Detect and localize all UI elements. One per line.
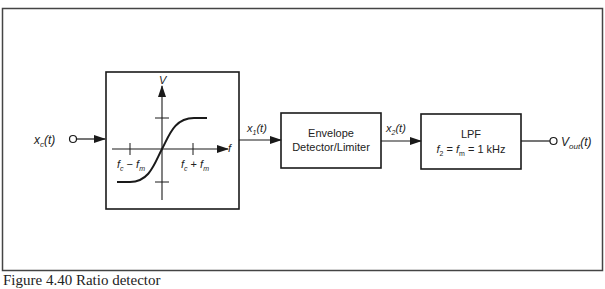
- x2-connection: x2(t): [381, 122, 421, 141]
- envelope-line1: Envelope: [308, 127, 354, 139]
- lpf-title: LPF: [461, 128, 481, 140]
- f-axis-label: f: [228, 142, 232, 154]
- x2-label: x2(t): [385, 122, 406, 136]
- envelope-line2: Detector/Limiter: [292, 141, 370, 153]
- lpf-cutoff-equation: f2 = fm = 1 kHz: [436, 143, 505, 157]
- x1-label: x1(t): [246, 122, 267, 136]
- lpf-block: LPF f2 = fm = 1 kHz: [421, 114, 521, 169]
- tick-left-label: fc − fm: [117, 158, 145, 172]
- v-axis-label: V: [159, 74, 168, 86]
- tick-right-label: fc + fm: [181, 158, 209, 172]
- output-terminal: Vout(t): [521, 135, 591, 151]
- envelope-detector-block: Envelope Detector/Limiter: [281, 113, 381, 168]
- figure-caption: Figure 4.40 Ratio detector: [3, 272, 160, 289]
- x1-connection: x1(t): [239, 122, 281, 140]
- input-terminal-circle: [70, 136, 77, 143]
- output-label: Vout(t): [561, 135, 591, 151]
- output-terminal-circle: [550, 138, 557, 145]
- input-terminal: xc(t): [33, 133, 105, 149]
- input-label-arg: (t): [44, 133, 55, 147]
- svg-text:xc(t): xc(t): [33, 133, 55, 149]
- discriminator-block: V f fc − fm fc + fm: [106, 72, 239, 209]
